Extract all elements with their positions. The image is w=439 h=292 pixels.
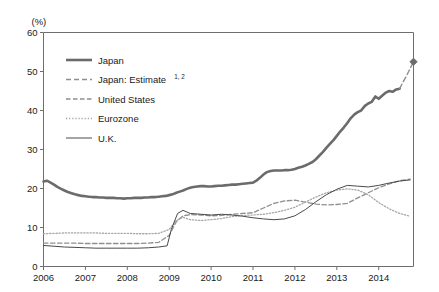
x-tick-label: 2009 bbox=[159, 272, 180, 283]
y-tick-label: 60 bbox=[27, 27, 38, 38]
y-axis-unit-label: (%) bbox=[32, 16, 47, 27]
legend-label-uk: U.K. bbox=[98, 133, 116, 144]
x-tick-label: 2010 bbox=[201, 272, 222, 283]
x-tick-label: 2012 bbox=[284, 272, 305, 283]
series-line-united_states bbox=[44, 179, 411, 243]
x-tick-label: 2006 bbox=[33, 272, 54, 283]
y-tick-label: 30 bbox=[27, 144, 38, 155]
x-tick-label: 2014 bbox=[368, 272, 389, 283]
x-tick-label: 2007 bbox=[75, 272, 96, 283]
y-axis: 0102030405060 bbox=[27, 27, 44, 272]
legend-label-united_states: United States bbox=[98, 94, 155, 105]
series-line-japan bbox=[44, 89, 400, 199]
legend-label-japan: Japan bbox=[98, 55, 124, 66]
y-tick-label: 10 bbox=[27, 222, 38, 233]
x-axis: 200620072008200920102011201220132014 bbox=[33, 267, 389, 284]
y-tick-label: 0 bbox=[32, 261, 37, 272]
series-line-eurozone bbox=[44, 189, 411, 234]
y-tick-label: 20 bbox=[27, 183, 38, 194]
legend-footnote-japan_estimate: 1, 2 bbox=[174, 73, 185, 80]
x-tick-label: 2008 bbox=[117, 272, 138, 283]
y-tick-label: 50 bbox=[27, 66, 38, 77]
legend-label-japan_estimate: Japan: Estimate bbox=[98, 74, 166, 85]
legend: JapanJapan: Estimate1, 2United StatesEur… bbox=[66, 55, 185, 144]
legend-label-eurozone: Eurozone bbox=[98, 113, 139, 124]
y-tick-label: 40 bbox=[27, 105, 38, 116]
x-tick-label: 2013 bbox=[326, 272, 347, 283]
x-tick-label: 2011 bbox=[243, 272, 263, 283]
plot-frame bbox=[44, 33, 414, 267]
line-chart: 0102030405060200620072008200920102011201… bbox=[0, 0, 439, 292]
series-group bbox=[44, 62, 414, 248]
estimate-endpoint-marker bbox=[410, 58, 417, 65]
series-line-japan_estimate bbox=[400, 62, 414, 89]
chart-container: 0102030405060200620072008200920102011201… bbox=[0, 0, 439, 292]
